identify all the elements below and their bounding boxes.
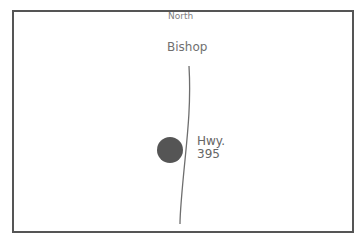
north-label: North bbox=[168, 11, 193, 21]
city-label-bishop: Bishop bbox=[167, 40, 207, 54]
map-graphics bbox=[0, 0, 359, 243]
highway-label-line2: 395 bbox=[197, 148, 225, 161]
location-marker bbox=[157, 137, 183, 163]
highway-label: Hwy. 395 bbox=[197, 135, 225, 161]
